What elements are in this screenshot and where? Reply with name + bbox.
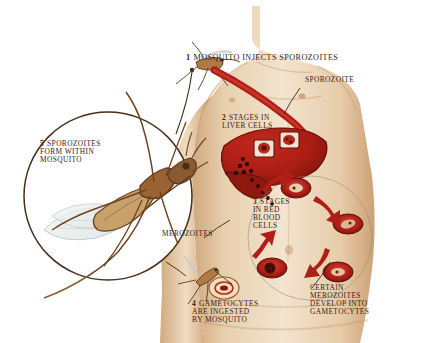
step-3-line-4: CELLS <box>253 222 290 230</box>
step-5-line-3: MOSQUITO <box>40 156 101 164</box>
step-3-label: 3STAGES IN RED BLOOD CELLS <box>253 198 290 230</box>
step-4-line-3: BY MOSQUITO <box>192 316 258 324</box>
certain-merozoites-line-4: GAMETOCYTES <box>310 308 369 316</box>
rbc-infected-bottom-right <box>323 262 353 282</box>
step-1-number: 1 <box>186 53 191 62</box>
step-5-label: 5SPOROZOITES FORM WITHIN MOSQUITO <box>40 140 101 164</box>
certain-merozoites-annotation-label: CERTAIN MEROZOITES DEVELOP INTO GAMETOCY… <box>310 284 369 316</box>
step-1-line-1: MOSQUITO INJECTS SPOROZOITES <box>194 53 339 62</box>
merozoites-annotation-line-1: MEROZOITES <box>162 229 213 238</box>
step-4-label: 4GAMETOCYTES ARE INGESTED BY MOSQUITO <box>192 300 258 324</box>
sporozoite-annotation-label: SPOROZOITE <box>305 76 354 84</box>
rbc-schizont-bottom-left <box>257 258 287 278</box>
sporozoite-annotation-line-1: SPOROZOITE <box>305 75 354 84</box>
step-1-label: 1MOSQUITO INJECTS SPOROZOITES <box>186 54 338 63</box>
step-2-line-2: LIVER CELLS <box>222 122 273 130</box>
gametocyte-cell-illustration <box>209 277 239 299</box>
mosquito-magnifier-circle <box>24 112 192 280</box>
malaria-life-cycle-diagram: 1MOSQUITO INJECTS SPOROZOITES SPOROZOITE… <box>0 0 421 343</box>
merozoites-annotation-label: MEROZOITES <box>162 230 213 238</box>
step-2-label: 2STAGES IN LIVER CELLS <box>222 114 273 130</box>
